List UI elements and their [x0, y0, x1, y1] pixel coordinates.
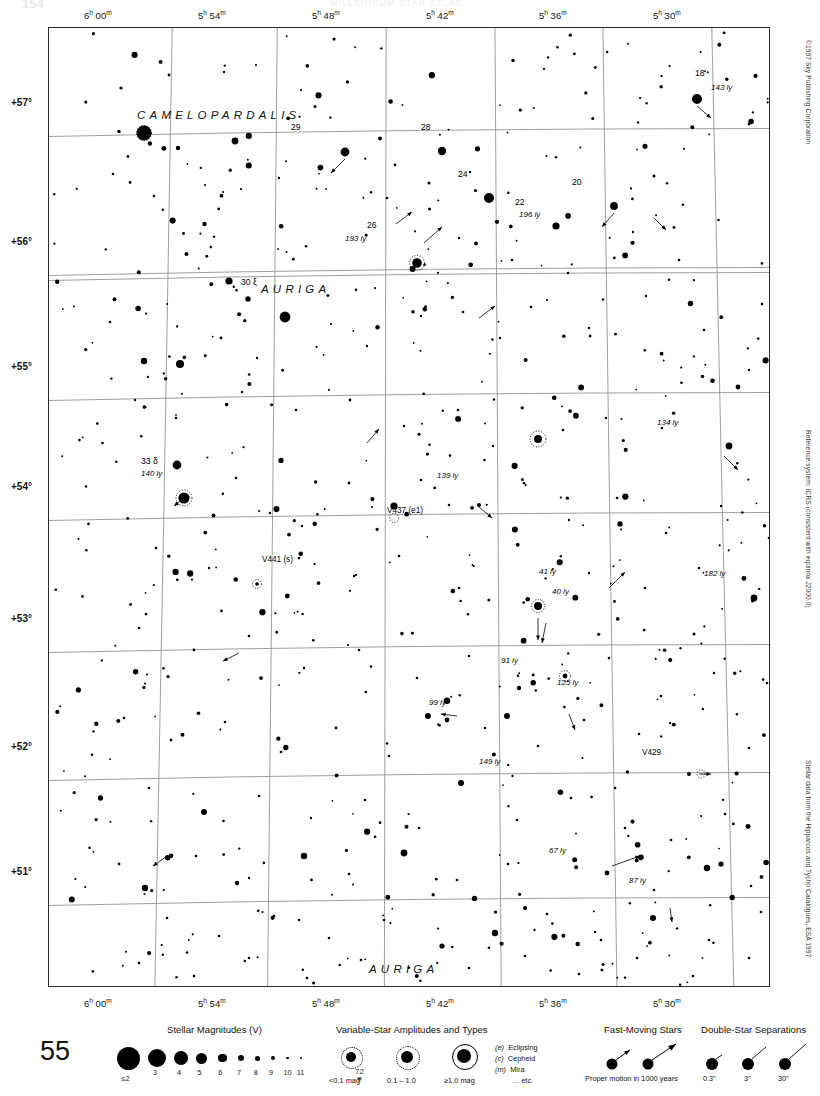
legend-magnitude-dot-7	[238, 1055, 245, 1062]
ra-tick-bottom-5: 5h 30m	[653, 997, 681, 1009]
ra-tick-top-2: 5h 48m	[312, 9, 340, 21]
legend-title-variables: Variable-Star Amplitudes and Types	[336, 1024, 488, 1035]
ra-tick-top-5: 5h 30m	[653, 9, 681, 21]
ra-tick-bottom-3: 5h 42m	[426, 997, 454, 1009]
copyright-note: ©1997 Sky Publishing Corporation	[805, 40, 812, 144]
distance-label-26: 193 ly	[345, 234, 366, 243]
legend-magnitude-label-9: 9	[269, 1068, 273, 1077]
legend-magnitude-label-11: 11	[297, 1068, 304, 1077]
legend-double-sep-0: 0.3"	[703, 1074, 716, 1083]
ra-tick-top-0: 6h 00m	[84, 9, 112, 21]
legend-magnitude-label-4: 4	[177, 1068, 181, 1077]
legend-magnitude-dot-8	[255, 1056, 260, 1061]
ra-tick-bottom-2: 5h 48m	[312, 997, 340, 1009]
ra-tick-top-1: 5h 54m	[198, 9, 226, 21]
double-star-icon	[700, 1042, 810, 1072]
legend-type-mira: (m) Mira	[495, 1065, 525, 1074]
proper-motion-icon	[596, 1042, 692, 1072]
star-label-28: 28	[421, 122, 431, 132]
star-label-29: 29	[291, 122, 301, 132]
legend-magnitude-dot-3	[148, 1049, 166, 1067]
dec-tick-53: +53°	[11, 613, 32, 624]
legend-magnitude-dot-6	[218, 1054, 227, 1063]
variable-label-v429: V429	[642, 748, 661, 757]
distance-label-182: 182 ly	[704, 569, 725, 578]
legend-magnitude-dot-5	[196, 1053, 207, 1064]
variable-dot-large	[457, 1049, 471, 1063]
distance-label-18: 143 ly	[711, 83, 732, 92]
ra-tick-bottom-4: 5h 36m	[539, 997, 567, 1009]
distance-label-22: 196 ly	[519, 210, 540, 219]
legend-title-magnitudes: Stellar Magnitudes (V)	[167, 1024, 262, 1035]
constellation-label-auriga-lower: AURIGA	[369, 963, 438, 975]
dec-tick-56: +56°	[11, 236, 32, 247]
legend-magnitude-dot-4	[174, 1051, 188, 1065]
distance-label-91: 91 ly	[501, 656, 518, 665]
distance-label-139: 139 ly	[437, 471, 458, 480]
legend-double-sep-1: 3"	[744, 1074, 751, 1083]
legend-magnitude-label-≤2: ≤2	[122, 1074, 130, 1083]
legend-magnitude-label-10: 10	[283, 1068, 291, 1077]
adjacent-chart-marker[interactable]: 72▼	[355, 1068, 364, 1084]
legend-magnitude-label-7: 7	[237, 1068, 241, 1077]
constellation-label-auriga-upper: AURIGA	[261, 283, 330, 295]
ra-tick-top-3: 5h 42m	[426, 9, 454, 21]
distance-label-125: 125 ly	[557, 678, 578, 687]
source-note: Stellar data from the Hipparcos and Tych…	[805, 760, 812, 957]
distance-label-33: 140 ly	[141, 469, 162, 478]
folio-number: 154	[22, 0, 44, 11]
star-label-22: 22	[515, 197, 525, 207]
distance-label-149: 149 ly	[479, 757, 500, 766]
legend-magnitude-dot-10	[286, 1057, 289, 1060]
legend-title-doubles: Double-Star Separations	[701, 1024, 806, 1035]
legend-double-sep-2: 30"	[778, 1074, 789, 1083]
legend-magnitude-label-5: 5	[198, 1068, 202, 1077]
legend-type-etc: ... etc.	[513, 1076, 533, 1085]
ra-tick-top-4: 5h 36m	[539, 9, 567, 21]
legend-amplitude-1: 0.1 – 1.0	[387, 1076, 416, 1085]
legend-type-eclipsing: (e) Eclipsing	[495, 1043, 538, 1052]
dec-tick-52: +52°	[11, 741, 32, 752]
star-label-18: 18	[695, 68, 705, 78]
dec-tick-55: +55°	[11, 361, 32, 372]
legend-proper-motion-caption: Proper motion in 1000 years	[585, 1074, 678, 1083]
legend-magnitude-label-6: 6	[218, 1068, 222, 1077]
distance-label-134: 134 ly	[657, 418, 678, 427]
atlas-title: MILLENNIUM STAR ATLAS	[330, 0, 462, 8]
variable-dot-small	[346, 1052, 356, 1062]
star-chart-plot[interactable]: CAMELOPARDALIS AURIGA AURIGA 18 143 ly 2…	[48, 27, 770, 987]
ra-tick-bottom-0: 6h 00m	[84, 997, 112, 1009]
distance-label-67: 67 ly	[549, 846, 566, 855]
dec-tick-51: +51°	[11, 866, 32, 877]
legend-magnitude-dot-9	[271, 1056, 275, 1060]
reference-note: Reference system: ICRS (consistent with …	[805, 430, 812, 608]
variable-label-v441: V441 (s)	[262, 555, 293, 564]
star-label-24: 24	[458, 169, 468, 179]
distance-label-87: 87 ly	[629, 876, 646, 885]
distance-label-99: 99 ly	[429, 698, 446, 707]
legend-magnitude-label-3: 3	[153, 1068, 157, 1077]
dec-tick-57: +57°	[11, 97, 32, 108]
legend-amplitude-2: ≥1.0 mag	[444, 1076, 475, 1085]
legend-magnitude-label-8: 8	[254, 1068, 258, 1077]
dec-tick-54: +54°	[11, 481, 32, 492]
legend-magnitude-dot-≤2	[117, 1047, 140, 1070]
ra-tick-bottom-1: 5h 54m	[198, 997, 226, 1009]
distance-label-40: 40 ly	[552, 587, 569, 596]
legend-type-cepheid: (c) Cepheid	[495, 1054, 535, 1063]
variable-dot-medium	[401, 1051, 413, 1063]
star-label-30-xi: 30 ξ	[241, 277, 257, 287]
star-label-33-delta: 33 δ	[141, 456, 158, 466]
star-label-20: 20	[572, 177, 582, 187]
distance-label-41: 41 ly	[539, 567, 556, 576]
legend-title-fast-moving: Fast-Moving Stars	[604, 1024, 682, 1035]
star-label-26: 26	[367, 220, 377, 230]
chart-legend: Stellar Magnitudes (V) ≤234567891011 Var…	[0, 1022, 820, 1096]
legend-magnitude-dot-11	[300, 1057, 302, 1059]
constellation-label-camelopardalis: CAMELOPARDALIS	[137, 109, 300, 121]
variable-label-v437: V437 (e1)	[387, 506, 423, 515]
